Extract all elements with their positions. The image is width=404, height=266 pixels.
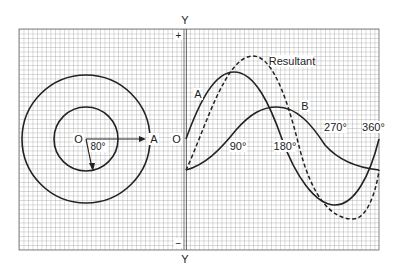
curve-a-label: A [194, 88, 202, 100]
positive-sign: + [176, 30, 182, 41]
curve-b-label: B [301, 100, 308, 112]
tick-90-label: 90° [230, 140, 247, 152]
tick-180-label: 180° [274, 140, 297, 152]
tick-270-label: 270° [324, 121, 347, 133]
phasor-waveform-diagram: Y Y + − O 80° A O A B Resultant 90° 180°… [0, 0, 404, 266]
phase-angle-label: 80° [90, 141, 105, 152]
phasor-a-label: A [150, 133, 158, 145]
phasor-origin-label: O [74, 133, 83, 145]
waveform-origin-label: O [172, 133, 181, 145]
y-axis-bottom-label: Y [181, 253, 189, 265]
negative-sign: − [176, 238, 182, 249]
y-axis-top-label: Y [181, 14, 189, 26]
resultant-label: Resultant [269, 55, 315, 67]
tick-360-label: 360° [362, 121, 385, 133]
